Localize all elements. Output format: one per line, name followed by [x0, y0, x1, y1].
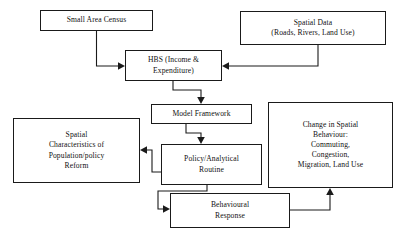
node-hbs: HBS (Income & Expenditure): [125, 50, 222, 81]
node-spatial-data: Spatial Data (Roads, Rivers, Land Use): [240, 11, 386, 45]
node-spatial-characteristics: Spatial Characteristics of Population/po…: [13, 118, 140, 183]
edge-model-framework-to-policy: [186, 124, 205, 144]
edge-behavioural-response-to-change-spatial: [290, 188, 334, 210]
node-hbs-label: HBS (Income & Expenditure): [145, 55, 202, 75]
edge-census-to-hbs: [97, 31, 126, 70]
node-small-area-census-label: Small Area Census: [64, 15, 130, 25]
node-spatial-characteristics-label: Spatial Characteristics of Population/po…: [46, 130, 108, 170]
edge-spatial-data-to-hbs: [222, 45, 318, 70]
node-behavioural-response-label: Behavioural Response: [208, 200, 252, 220]
node-change-in-spatial-behaviour: Change in Spatial Behaviour: Commuting, …: [268, 102, 393, 188]
edge-hbs-to-model-framework: [173, 81, 205, 104]
node-spatial-data-label: Spatial Data (Roads, Rivers, Land Use): [268, 18, 357, 38]
node-model-framework-label: Model Framework: [169, 109, 233, 119]
node-change-in-spatial-behaviour-label: Change in Spatial Behaviour: Commuting, …: [295, 120, 366, 170]
flowchart-canvas: Small Area Census Spatial Data (Roads, R…: [0, 0, 399, 240]
node-small-area-census: Small Area Census: [40, 10, 153, 31]
edge-policy-to-spatial-characteristics: [140, 146, 161, 172]
node-behavioural-response: Behavioural Response: [170, 193, 290, 228]
node-policy-analytical-routine-label: Policy/Analytical Routine: [181, 154, 242, 174]
node-model-framework: Model Framework: [151, 104, 252, 124]
node-policy-analytical-routine: Policy/Analytical Routine: [161, 144, 262, 185]
